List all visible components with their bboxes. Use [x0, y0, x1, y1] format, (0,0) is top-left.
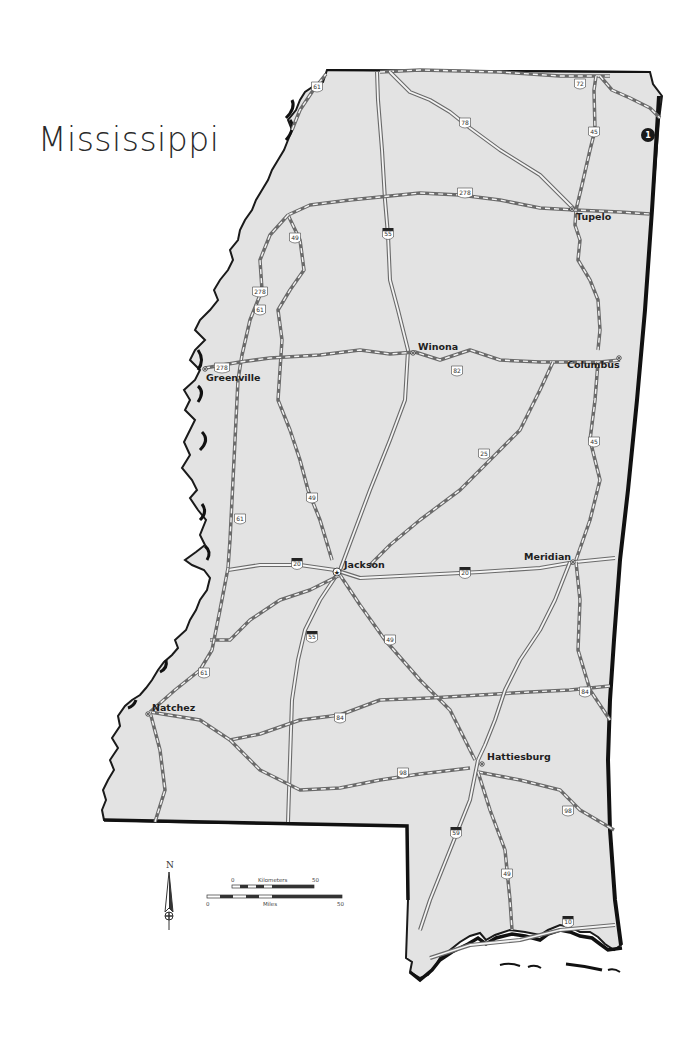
interstate-shield-10: 10 [563, 916, 574, 928]
us-route-shield-61: 61 [199, 668, 210, 678]
shield-number: 84 [336, 714, 344, 721]
us-route-shield-84: 84 [335, 713, 346, 723]
state-map: 6172784527855492786127882254549612020554… [0, 0, 696, 1037]
shield-number: 82 [453, 367, 461, 374]
shield-number: 98 [564, 807, 572, 814]
us-route-shield-278: 278 [458, 188, 473, 198]
city-label: Tupelo [576, 211, 612, 222]
shield-number: 278 [459, 189, 471, 196]
km-label: Kilometers [258, 877, 288, 883]
shield-number: 55 [384, 230, 392, 237]
km-start: 0 [231, 877, 235, 883]
shield-number: 55 [308, 633, 316, 640]
mi-label: Miles [263, 901, 277, 907]
shield-number: 61 [313, 83, 321, 90]
shield-number: 59 [452, 829, 460, 836]
us-route-shield-45: 45 [589, 127, 600, 137]
interstate-shield-20: 20 [292, 558, 303, 570]
us-route-shield-72: 72 [575, 79, 586, 89]
us-route-shield-45: 45 [589, 437, 600, 447]
km-end: 50 [312, 877, 319, 883]
shield-number: 20 [461, 569, 469, 576]
north-label: N [166, 860, 174, 870]
shield-number: 98 [399, 769, 407, 776]
barrier-island [500, 964, 520, 966]
city-label: Jackson [343, 559, 385, 570]
shield-number: 10 [564, 918, 572, 925]
shield-number: 45 [590, 438, 598, 445]
us-route-shield-98: 98 [563, 806, 574, 816]
us-route-shield-61: 61 [255, 305, 266, 315]
shield-number: 49 [386, 636, 394, 643]
barrier-island [566, 964, 602, 970]
us-route-shield-49: 49 [502, 869, 513, 879]
interstate-shield-55: 55 [383, 228, 394, 240]
marker-number: 1 [645, 131, 651, 140]
us-route-shield-25: 25 [479, 449, 490, 459]
us-route-shield-49: 49 [307, 493, 318, 503]
city-label: Greenville [206, 372, 261, 383]
us-route-shield-78: 78 [460, 118, 471, 128]
shield-number: 61 [236, 515, 244, 522]
shield-number: 61 [256, 306, 264, 313]
shield-number: 278 [216, 364, 228, 371]
scale-bar: 0 Kilometers 50 0 Miles 50 [206, 877, 344, 907]
shield-number: 78 [461, 119, 469, 126]
city-label: Meridian [524, 551, 571, 562]
svg-text:★: ★ [334, 569, 340, 577]
shield-number: 49 [291, 234, 299, 241]
us-route-shield-84: 84 [580, 687, 591, 697]
numbered-marker-icon: 1 [641, 128, 655, 142]
city-label: Winona [418, 341, 458, 352]
interstate-shield-20: 20 [460, 567, 471, 579]
shield-number: 25 [480, 450, 488, 457]
mi-end: 50 [337, 901, 344, 907]
interstate-shield-59: 59 [451, 827, 462, 839]
us-route-shield-49: 49 [290, 233, 301, 243]
shield-number: 278 [254, 288, 266, 295]
mi-start: 0 [206, 901, 210, 907]
shield-number: 20 [293, 560, 301, 567]
city-label: Columbus [567, 359, 620, 370]
north-arrow-icon: N [165, 860, 174, 930]
city-label: Hattiesburg [487, 751, 551, 762]
us-route-shield-49: 49 [385, 635, 396, 645]
shield-number: 49 [503, 870, 511, 877]
shield-number: 72 [576, 80, 584, 87]
us-route-shield-278: 278 [253, 287, 268, 297]
us-route-shield-61: 61 [235, 514, 246, 524]
barrier-island [608, 969, 620, 972]
us-route-shield-82: 82 [452, 366, 463, 376]
barrier-island [528, 966, 541, 968]
interstate-shield-55: 55 [307, 631, 318, 643]
city-label: Natchez [152, 702, 196, 713]
shield-number: 49 [308, 494, 316, 501]
shield-number: 84 [581, 688, 589, 695]
shield-number: 61 [200, 669, 208, 676]
us-route-shield-61: 61 [312, 82, 323, 92]
us-route-shield-98: 98 [398, 768, 409, 778]
shield-number: 45 [590, 128, 598, 135]
